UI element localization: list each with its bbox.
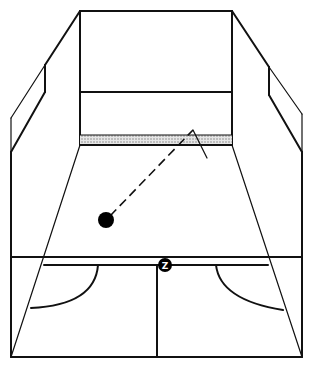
squash-court-diagram: Z <box>0 0 311 379</box>
service-box-left <box>31 265 98 308</box>
marker-label: Z <box>162 261 169 271</box>
front-wall <box>80 11 232 145</box>
right-side-wall <box>232 11 302 357</box>
service-box-right <box>216 265 283 310</box>
left-side-wall <box>11 11 80 357</box>
position-marker-z: Z <box>158 258 172 272</box>
tin <box>80 135 232 145</box>
ball <box>98 212 114 228</box>
